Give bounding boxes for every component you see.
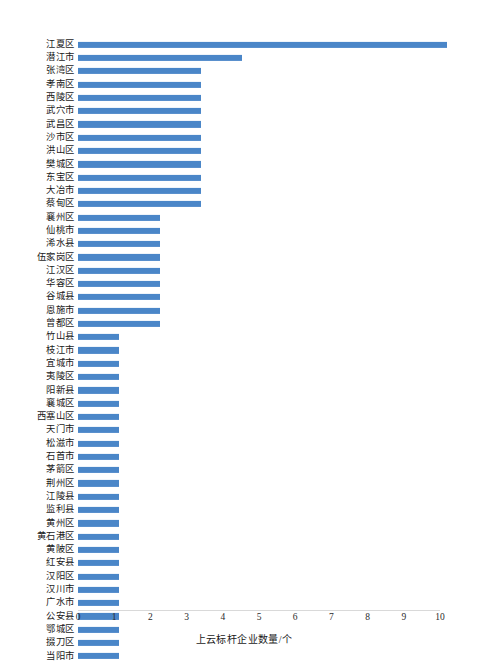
bar-row: 汉阳区 [0,570,488,583]
x-tick-label: 1 [99,612,129,622]
bar [78,121,201,127]
bar [78,507,119,513]
bar [78,42,447,48]
x-tick-label: 9 [389,612,419,622]
bar-track [78,211,488,224]
category-label: 竹山县 [0,332,78,342]
bar-row: 松滋市 [0,437,488,450]
bar [78,440,119,446]
bar-track [78,424,488,437]
category-label: 夷陵区 [0,372,78,382]
x-tick-label: 2 [135,612,165,622]
bar-track [78,264,488,277]
bar-track [78,464,488,477]
bar [78,175,201,181]
bar-track [78,144,488,157]
category-label: 汉川市 [0,585,78,595]
category-label: 谷城县 [0,292,78,302]
bar-row: 沙市区 [0,131,488,144]
category-label: 东宝区 [0,173,78,183]
bar-track [78,184,488,197]
category-label: 宜城市 [0,359,78,369]
bar [78,414,119,420]
bar [78,201,201,207]
bar-track [78,410,488,423]
bar-row: 潜江市 [0,51,488,64]
bar [78,68,201,74]
bar-track [78,517,488,530]
bar [78,294,160,300]
bar [78,254,160,260]
category-label: 蔡甸区 [0,199,78,209]
bar-track [78,118,488,131]
bar-track [78,503,488,516]
bar-row: 竹山县 [0,331,488,344]
x-tick-label: 4 [208,612,238,622]
category-label: 黄州区 [0,519,78,529]
category-label: 华容区 [0,279,78,289]
bar [78,161,201,167]
bar-row: 茅箭区 [0,464,488,477]
bar-row: 蔡甸区 [0,198,488,211]
bar-row: 夷陵区 [0,370,488,383]
x-axis-title: 上云标杆企业数量/个 [0,631,488,646]
bar-row: 阳新县 [0,384,488,397]
bar [78,95,201,101]
bar-track [78,384,488,397]
bar-row: 黄陂区 [0,543,488,556]
bar-track [78,344,488,357]
bar-track [78,251,488,264]
bar-row: 曾都区 [0,317,488,330]
bar [78,467,119,473]
bar [78,587,119,593]
bar-track [78,237,488,250]
category-label: 天门市 [0,425,78,435]
x-tick-label: 8 [353,612,383,622]
x-tick-label: 5 [244,612,274,622]
bar-row: 天门市 [0,424,488,437]
bar [78,387,119,393]
category-label: 监利县 [0,505,78,515]
bar-track [78,583,488,596]
x-axis: 012345678910 上云标杆企业数量/个 [0,610,488,671]
bar-track [78,291,488,304]
x-tick-label: 6 [280,612,310,622]
horizontal-bar-chart: 江夏区潜江市张湾区孝南区西陵区武穴市武昌区沙市区洪山区樊城区东宝区大冶市蔡甸区襄… [0,0,488,671]
bar-track [78,51,488,64]
bar-row: 荆州区 [0,477,488,490]
bar [78,361,119,367]
bar-row: 恩施市 [0,304,488,317]
bar [78,135,201,141]
bar-track [78,543,488,556]
category-label: 洪山区 [0,146,78,156]
bar [78,148,201,154]
bar-row: 张湾区 [0,65,488,78]
bar-row: 黄州区 [0,517,488,530]
category-label: 浠水县 [0,239,78,249]
bar-track [78,131,488,144]
bar [78,347,119,353]
bar-row: 西塞山区 [0,410,488,423]
bar [78,600,119,606]
bar-row: 东宝区 [0,171,488,184]
bar-row: 大冶市 [0,184,488,197]
bar [78,560,119,566]
bar [78,427,119,433]
bar-track [78,224,488,237]
category-label: 松滋市 [0,439,78,449]
bar-track [78,397,488,410]
x-tick-label: 0 [63,612,93,622]
category-label: 茅箭区 [0,465,78,475]
bar-row: 仙桃市 [0,224,488,237]
category-label: 石首市 [0,452,78,462]
bar [78,573,119,579]
bar-row: 洪山区 [0,144,488,157]
bar [78,334,119,340]
bar-row: 襄州区 [0,211,488,224]
bar [78,188,201,194]
category-label: 广水市 [0,598,78,608]
bar-row: 广水市 [0,596,488,609]
bar-row: 樊城区 [0,158,488,171]
bar-track [78,530,488,543]
bar [78,281,160,287]
